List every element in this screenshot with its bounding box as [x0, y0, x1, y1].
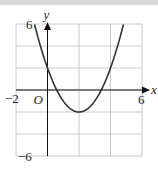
y-axis-arrow-icon [44, 22, 51, 30]
axes [16, 22, 150, 156]
chart: −2 6 6 −6 x y O [0, 0, 158, 170]
x-axis-label: x [150, 82, 157, 97]
tick-label-x-min: −2 [5, 91, 19, 106]
y-axis-label: y [42, 7, 50, 22]
tick-label-y-min: −6 [18, 149, 32, 164]
tick-label-y-max: 6 [26, 17, 33, 32]
origin-label: O [34, 92, 44, 107]
tick-label-x-max: 6 [138, 92, 145, 107]
